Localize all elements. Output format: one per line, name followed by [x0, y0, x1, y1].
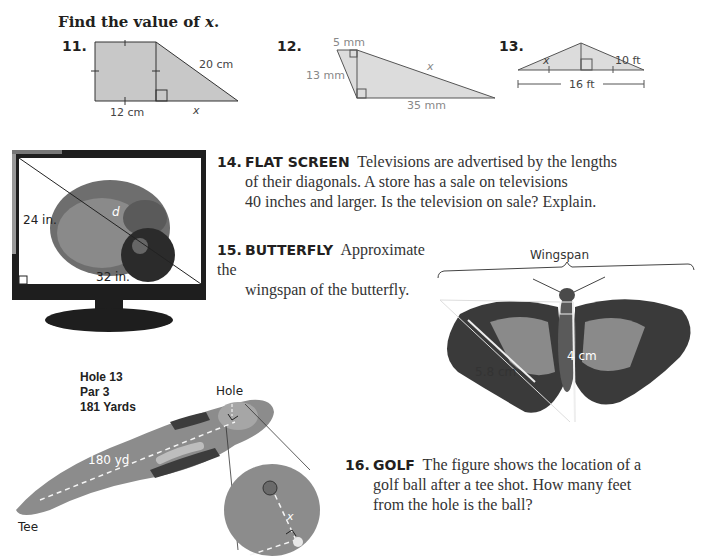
golf-label-distance: 180 yd: [88, 453, 129, 467]
problem-14-line-1: Televisions are advertised by the length…: [357, 153, 617, 170]
heading-suffix: .: [214, 13, 219, 31]
problem-16-line-3: from the hole is the ball?: [345, 495, 695, 515]
problem-14-number: 14.: [217, 152, 245, 172]
problem-15-number: 15.: [217, 240, 245, 260]
golf-label-tee: Tee: [18, 520, 38, 534]
exercise-12-label-left: 13 mm: [306, 69, 345, 82]
exercise-12-label-top: 5 mm: [333, 36, 365, 49]
tv-label-width: 32 in.: [96, 270, 130, 284]
heading-text: Find the value of: [58, 13, 205, 31]
golf-yards: 181 Yards: [80, 400, 136, 415]
problem-16-keyword: GOLF: [373, 457, 415, 473]
exercise-11-label-hypotenuse: 20 cm: [199, 58, 233, 71]
tv-label-height: 24 in.: [23, 213, 57, 227]
problem-15-keyword: BUTTERFLY: [245, 242, 333, 258]
exercise-13-label-x: x: [543, 54, 550, 67]
golf-label-x: x: [287, 510, 294, 523]
exercise-11-number: 11.: [62, 38, 87, 54]
problem-16-line-1: The figure shows the location of a: [423, 456, 642, 473]
instructions-heading: Find the value of x.: [58, 13, 219, 31]
heading-variable: x: [205, 13, 214, 31]
problem-15-line-2: wingspan of the butterfly.: [217, 280, 447, 300]
golf-hole-figure: [10, 370, 330, 558]
golf-info: Hole 13 Par 3 181 Yards: [80, 370, 136, 415]
butterfly-label-wing: 5.8 cm: [475, 365, 516, 379]
problem-15: 15.BUTTERFLY Approximate the wingspan of…: [217, 240, 447, 300]
problem-16-line-2: golf ball after a tee shot. How many fee…: [345, 475, 695, 495]
problem-14: 14.FLAT SCREEN Televisions are advertise…: [217, 152, 697, 212]
problem-14-line-3: 40 inches and larger. Is the television …: [217, 192, 697, 212]
butterfly-label-body: 4 cm: [567, 349, 597, 363]
television-figure: [10, 148, 210, 336]
golf-hole-number: Hole 13: [80, 370, 136, 385]
butterfly-figure: [430, 262, 700, 422]
problem-14-keyword: FLAT SCREEN: [245, 154, 350, 170]
exercise-13-label-base: 16 ft: [569, 78, 595, 91]
exercise-12-label-bottom: 35 mm: [407, 99, 446, 112]
golf-par: Par 3: [80, 385, 136, 400]
exercise-13-figure: [515, 40, 650, 110]
exercise-11-label-x: x: [193, 104, 200, 117]
problem-16-number: 16.: [345, 455, 373, 475]
exercise-11-label-base: 12 cm: [110, 106, 144, 119]
butterfly-label-wingspan: Wingspan: [530, 248, 589, 262]
golf-label-hole: Hole: [216, 384, 243, 398]
exercise-12-label-x: x: [427, 60, 434, 73]
tv-label-diagonal: d: [112, 205, 120, 219]
problem-16: 16.GOLF The figure shows the location of…: [345, 455, 695, 515]
exercise-13-label-side: 10 ft: [615, 54, 641, 67]
exercise-12-figure: [330, 45, 510, 105]
problem-14-line-2: of their diagonals. A store has a sale o…: [217, 172, 697, 192]
exercise-12-number: 12.: [277, 38, 302, 54]
